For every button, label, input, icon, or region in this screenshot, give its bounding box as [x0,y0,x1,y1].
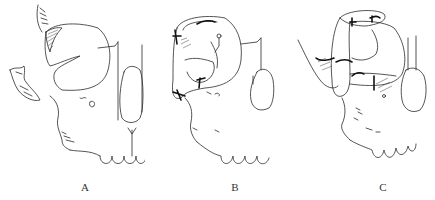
panel-label-c: C [373,181,393,193]
skull-drawing-b [145,0,290,180]
panel-c: C [290,0,435,200]
skull-drawing-c [290,0,435,180]
skull-drawing-a [0,0,145,180]
panel-a: A [0,0,145,200]
panel-label-b: B [225,181,245,193]
panel-label-a: A [75,181,95,193]
panel-b: B [145,0,290,200]
